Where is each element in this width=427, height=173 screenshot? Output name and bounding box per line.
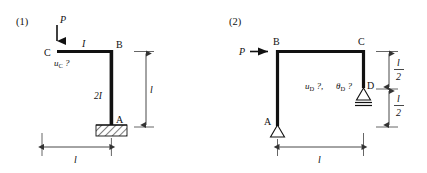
dim-u2-denominator: 2 [396, 71, 401, 82]
node-label-b: B [116, 39, 123, 50]
dimension-vertical-panel1: l [134, 52, 154, 128]
dimension-upper-half-panel2: l 2 [376, 52, 404, 90]
panel-1-number: (1) [16, 16, 29, 28]
panel-2-number: (2) [229, 16, 242, 28]
unknown-uc-suffix: ? [63, 58, 70, 68]
unknown-thetad-annotation: θD ? [336, 81, 352, 92]
node-label-c-2: C [358, 36, 365, 47]
member-cb-stiffness-label: I [81, 38, 86, 49]
unknown-uc-annotation: uC ? [54, 58, 70, 69]
unknown-ud-annotation: uD ?, [305, 81, 323, 92]
panel-2-group: (2) P B C D A uD ?, θD ? [229, 16, 404, 165]
member-ba-stiffness-label: 2I [94, 91, 103, 101]
support-fixed-a-hatch [96, 125, 127, 136]
dim-h2-label: l [318, 154, 321, 165]
load-label-p-2: P [238, 46, 245, 57]
node-label-b-2: B [273, 36, 280, 47]
dimension-lower-half-panel2: l 2 [376, 91, 404, 127]
load-label-p: P [59, 14, 66, 25]
node-label-d: D [367, 80, 374, 91]
support-pin-a [271, 125, 285, 137]
unknown-thetad-suffix: ? [345, 81, 352, 91]
unknown-ud-suffix: ?, [314, 81, 323, 91]
node-label-a: A [116, 114, 124, 125]
dim-v1-label: l [150, 84, 153, 95]
support-fixed-a [96, 125, 127, 136]
diagram-canvas: (1) P I 2I C B A uC ? [0, 0, 427, 173]
dimension-horizontal-panel2: l [278, 133, 364, 165]
dim-l2-numerator: l [397, 93, 400, 104]
dim-h1-label: l [74, 154, 77, 165]
dim-l2-denominator: 2 [396, 107, 401, 118]
node-label-c: C [44, 47, 51, 58]
node-label-a-2: A [264, 116, 272, 127]
support-pin-a-triangle [271, 125, 285, 137]
dim-u2-numerator: l [397, 57, 400, 68]
dimension-horizontal-panel1: l [42, 133, 111, 165]
structural-figure: (1) P I 2I C B A uC ? [0, 0, 427, 173]
panel-1-group: (1) P I 2I C B A uC ? [16, 14, 154, 165]
